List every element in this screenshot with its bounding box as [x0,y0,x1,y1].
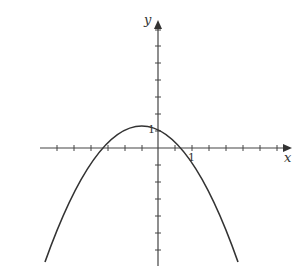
y-axis-label: y [144,12,151,27]
x-axis-label: x [284,150,291,165]
x-tick-label-1: 1 [188,151,195,164]
y-axis-arrow-icon [154,20,162,29]
y-tick-label-1: 1 [148,123,155,136]
